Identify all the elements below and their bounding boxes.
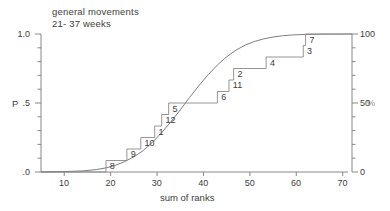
x-tick-label: 30 bbox=[152, 179, 162, 188]
x-tick-label: 60 bbox=[291, 179, 301, 188]
y-tick-label-right: 50 bbox=[360, 99, 370, 108]
step-label-2: 2 bbox=[237, 70, 242, 79]
chart-subtitle: 21- 37 weeks bbox=[52, 19, 111, 29]
x-tick-label: 20 bbox=[105, 179, 115, 188]
chart-figure: general movements 21- 37 weeks P % sum o… bbox=[0, 0, 390, 211]
y-tick-label-left: .5 bbox=[22, 99, 30, 108]
y-tick-label-left: .0 bbox=[22, 168, 30, 177]
x-tick-label: 40 bbox=[198, 179, 208, 188]
x-tick-label: 70 bbox=[338, 179, 348, 188]
step-label-3: 3 bbox=[307, 47, 312, 56]
step-label-10: 10 bbox=[145, 139, 155, 148]
step-label-12: 12 bbox=[166, 116, 176, 125]
step-label-1: 1 bbox=[159, 128, 164, 137]
y-tick-label-right: 100 bbox=[360, 30, 375, 39]
x-tick-label: 10 bbox=[59, 179, 69, 188]
step-label-6: 6 bbox=[221, 93, 226, 102]
step-label-8: 8 bbox=[110, 162, 115, 171]
step-label-9: 9 bbox=[131, 150, 136, 159]
y-axis-label-left: P bbox=[12, 99, 18, 109]
step-label-5: 5 bbox=[172, 105, 177, 114]
empirical-step-path bbox=[41, 34, 352, 172]
step-label-4: 4 bbox=[270, 59, 275, 68]
y-tick-label-left: 1.0 bbox=[18, 30, 31, 39]
step-label-7: 7 bbox=[309, 36, 314, 45]
chart-title: general movements bbox=[52, 7, 139, 17]
empirical-step-curve bbox=[41, 34, 352, 172]
x-axis-label: sum of ranks bbox=[160, 193, 214, 203]
y-tick-label-right: 0 bbox=[360, 168, 365, 177]
step-label-11: 11 bbox=[233, 81, 242, 90]
x-tick-label: 50 bbox=[245, 179, 255, 188]
